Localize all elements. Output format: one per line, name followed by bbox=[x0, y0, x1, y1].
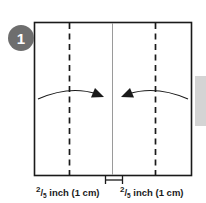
svg-text:2/5 inch (1 cm): 2/5 inch (1 cm) bbox=[120, 185, 184, 199]
center-gap-bracket bbox=[105, 176, 123, 185]
step-number-badge: 1 bbox=[8, 25, 34, 51]
left-dimension-text: inch (1 cm) bbox=[47, 187, 100, 198]
page-edge-tab bbox=[195, 76, 206, 126]
svg-text:2/5 inch (1 cm): 2/5 inch (1 cm) bbox=[36, 185, 100, 199]
right-dimension-text: inch (1 cm) bbox=[131, 187, 184, 198]
left-dimension-label: 2/5 inch (1 cm) bbox=[36, 185, 100, 199]
fold-instruction-figure: 1 2/5 inch (1 cm) 2/5 inch (1 cm) bbox=[0, 0, 206, 203]
right-dimension-label: 2/5 inch (1 cm) bbox=[120, 185, 184, 199]
step-number-label: 1 bbox=[17, 30, 25, 47]
